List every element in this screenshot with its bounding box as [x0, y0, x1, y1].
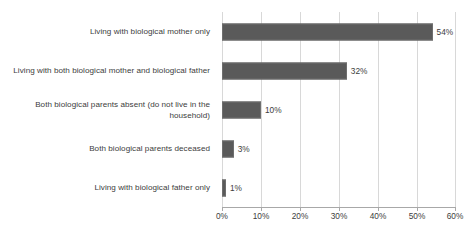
bar-row: 10% — [222, 90, 456, 129]
bar[interactable] — [222, 23, 433, 40]
x-axis-tick-label: 50% — [409, 211, 426, 221]
bar-chart: Living with biological mother only Livin… — [0, 0, 472, 238]
bar-value-label: 10% — [261, 105, 282, 115]
bar-row: 54% — [222, 12, 456, 51]
x-axis-tick-label: 40% — [370, 211, 387, 221]
bar-value-label: 1% — [226, 183, 242, 193]
x-axis-tick-label: 0% — [216, 211, 228, 221]
category-label: Living with biological father only — [0, 183, 216, 194]
bar[interactable] — [222, 62, 347, 79]
bar-value-label: 32% — [347, 66, 368, 76]
x-axis-tick-labels: 0% 10% 20% 30% 40% 50% 60% — [222, 211, 456, 225]
x-axis-tick-label: 20% — [292, 211, 309, 221]
category-label: Both biological parents deceased — [0, 144, 216, 155]
bar-row: 3% — [222, 130, 456, 169]
category-label: Living with biological mother only — [0, 26, 216, 37]
x-axis-tick-label: 10% — [253, 211, 270, 221]
bar-row: 32% — [222, 51, 456, 90]
bar-row: 1% — [222, 169, 456, 208]
bar-value-label: 54% — [433, 27, 454, 37]
plot-area: 54% 32% 10% 3% 1% — [222, 12, 456, 208]
x-axis-tick-label: 30% — [331, 211, 348, 221]
bar-value-label: 3% — [234, 144, 250, 154]
category-label: Living with both biological mother and b… — [0, 66, 216, 77]
category-label: Both biological parents absent (do not l… — [0, 100, 216, 121]
bar[interactable] — [222, 101, 261, 118]
bar[interactable] — [222, 141, 234, 158]
category-axis-labels: Living with biological mother only Livin… — [0, 12, 216, 208]
x-axis-tick-label: 60% — [447, 211, 464, 221]
